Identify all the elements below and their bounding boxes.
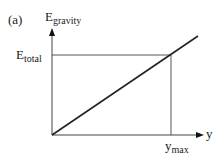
e-total-label-main: E	[16, 47, 24, 62]
panel-label: (a)	[8, 13, 22, 26]
e-gravity-line	[52, 36, 198, 135]
y-max-label: ymax	[165, 139, 189, 155]
y-axis-arrow-icon	[49, 28, 55, 36]
y-axis-label: Egravity	[45, 10, 81, 26]
y-max-label-sub: max	[172, 144, 189, 155]
e-total-label-sub: total	[24, 53, 42, 64]
y-axis-label-sub: gravity	[53, 15, 81, 26]
x-axis-arrow-icon	[196, 132, 204, 138]
y-axis-label-main: E	[45, 9, 53, 24]
diagram-canvas	[0, 0, 222, 157]
x-axis-label: y	[206, 127, 213, 140]
e-total-label: Etotal	[16, 48, 42, 64]
